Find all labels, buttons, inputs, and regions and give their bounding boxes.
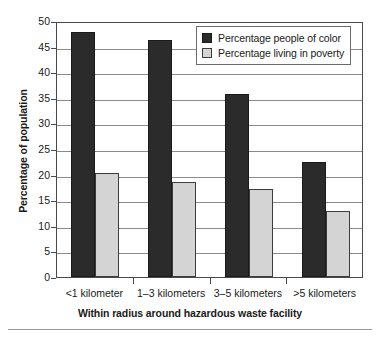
bar (71, 32, 95, 277)
legend-item: Percentage people of color (202, 30, 344, 45)
gridline (57, 100, 362, 101)
legend-label: Percentage people of color (218, 32, 341, 44)
bar-chart-figure: Percentage of population 051015202530354… (0, 0, 380, 339)
y-axis-tick-label: 20 (18, 169, 50, 181)
legend-swatch-icon (202, 33, 212, 43)
x-axis-tick (210, 278, 211, 284)
chart-legend: Percentage people of colorPercentage liv… (196, 26, 351, 65)
y-axis-tick-label: 35 (18, 92, 50, 104)
gridline (57, 125, 362, 126)
x-axis-title: Within radius around hazardous waste fac… (0, 307, 380, 319)
x-axis-tick-label: <1 kilometer (56, 287, 133, 299)
gridline (57, 74, 362, 75)
bar (172, 182, 196, 277)
x-axis-tick-label: 3–5 kilometers (210, 287, 287, 299)
bar (95, 173, 119, 277)
bar (302, 162, 326, 277)
y-axis-tick-label: 15 (18, 194, 50, 206)
y-axis-tick (51, 278, 56, 279)
y-axis-tick-label: 30 (18, 117, 50, 129)
y-axis-tick-label: 5 (18, 245, 50, 257)
footer-divider (8, 329, 372, 330)
y-axis-tick-label: 10 (18, 220, 50, 232)
bar (326, 211, 350, 277)
bar (148, 40, 172, 277)
y-axis-tick-label: 25 (18, 143, 50, 155)
legend-swatch-icon (202, 48, 212, 58)
legend-item: Percentage living in poverty (202, 45, 344, 60)
gridline (57, 151, 362, 152)
x-axis-tick (133, 278, 134, 284)
legend-label: Percentage living in poverty (218, 47, 344, 59)
y-axis-tick-label: 0 (18, 271, 50, 283)
y-axis-tick-label: 45 (18, 41, 50, 53)
x-axis-tick-label: 1–3 kilometers (133, 287, 210, 299)
x-axis-tick (286, 278, 287, 284)
bar (249, 189, 273, 277)
y-axis-tick-label: 50 (18, 15, 50, 27)
bar (225, 94, 249, 277)
y-axis-tick-label: 40 (18, 66, 50, 78)
x-axis-tick-label: >5 kilometers (286, 287, 363, 299)
